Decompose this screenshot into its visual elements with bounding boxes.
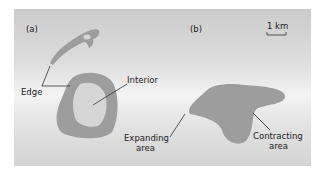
contracting-leader-line [253,113,270,130]
interior-label: Interior [127,75,159,85]
interior-area [73,83,107,127]
scale-bar [267,32,286,35]
contracting-label-line2: area [269,141,288,151]
diagram: (a) Edge Interior (b) 1 km Expanding are… [0,0,325,173]
panel-b-label: (b) [190,24,202,34]
contracting-label-line1: Contracting [253,131,303,141]
expanding-leader-line [170,114,185,137]
scale-bar-label: 1 km [267,21,288,31]
edge-leader-line [42,66,70,86]
expanding-label-line1: Expanding [124,133,169,143]
expanding-label-line2: area [136,143,155,153]
edge-patch [50,29,99,65]
edge-patch-hole [84,35,91,40]
edge-label: Edge [21,87,42,97]
panel-a-label: (a) [26,24,38,34]
